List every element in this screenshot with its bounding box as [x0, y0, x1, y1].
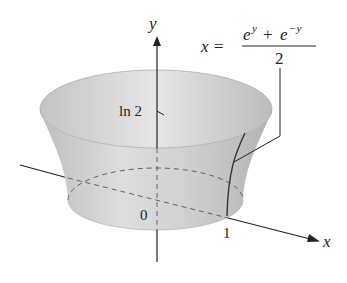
equation-term-a: e	[243, 25, 251, 44]
y-axis-arrowhead	[153, 36, 161, 46]
y-axis-label: y	[147, 14, 157, 33]
equation-term-b: e	[280, 25, 288, 44]
equation-lhs: x =	[200, 37, 224, 56]
diagram-canvas: y x 0 1 ln 2 x = e y + e −y 2	[0, 0, 347, 283]
x-tick-one-label: 1	[223, 225, 231, 241]
x-axis-label: x	[322, 232, 331, 251]
x-axis	[228, 218, 314, 240]
x-axis-back	[20, 165, 68, 178]
equation-plus: +	[263, 25, 273, 44]
equation-exp-b: −y	[289, 22, 301, 34]
surface-top-rim	[40, 70, 272, 148]
equation: x = e y + e −y 2	[200, 22, 316, 68]
equation-denominator: 2	[275, 49, 284, 68]
equation-exp-a: y	[251, 22, 257, 34]
y-tick-ln2-label: ln 2	[119, 103, 142, 119]
x-axis-arrowhead	[307, 234, 320, 242]
origin-label: 0	[140, 207, 148, 223]
